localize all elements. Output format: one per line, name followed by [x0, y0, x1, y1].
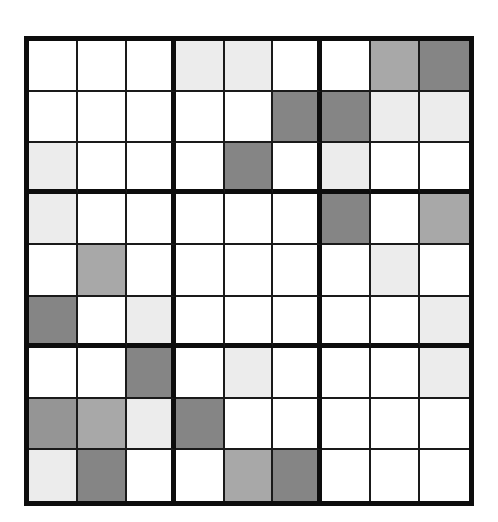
grid-cell[interactable]: [322, 92, 371, 143]
grid-cell[interactable]: [420, 41, 469, 92]
grid-cell[interactable]: [225, 348, 274, 399]
grid-cell[interactable]: [371, 143, 420, 194]
grid-cell[interactable]: [322, 297, 371, 348]
grid-cell[interactable]: [29, 41, 78, 92]
grid-cell[interactable]: [420, 92, 469, 143]
grid-cell[interactable]: [127, 41, 176, 92]
grid-cell[interactable]: [78, 450, 127, 501]
grid-cell[interactable]: [225, 41, 274, 92]
grid-cell[interactable]: [127, 348, 176, 399]
grid-cell[interactable]: [127, 92, 176, 143]
grid-cell[interactable]: [29, 92, 78, 143]
grid-cell[interactable]: [78, 92, 127, 143]
grid-cell[interactable]: [420, 450, 469, 501]
grid-cell[interactable]: [322, 348, 371, 399]
grid-cell[interactable]: [371, 194, 420, 245]
grid-cell[interactable]: [176, 297, 225, 348]
grid-cell[interactable]: [273, 297, 322, 348]
grid-cell[interactable]: [371, 297, 420, 348]
grid-cell[interactable]: [127, 297, 176, 348]
grid-cell[interactable]: [78, 399, 127, 450]
grid-cell[interactable]: [273, 245, 322, 296]
grid-cell[interactable]: [225, 399, 274, 450]
grid-cell[interactable]: [273, 143, 322, 194]
grid-cell[interactable]: [176, 92, 225, 143]
grid-cell[interactable]: [176, 450, 225, 501]
grid-cell[interactable]: [29, 450, 78, 501]
grid-cell[interactable]: [322, 143, 371, 194]
grid-cell[interactable]: [322, 399, 371, 450]
grid-cell[interactable]: [273, 194, 322, 245]
grid-cell[interactable]: [29, 245, 78, 296]
grid-cell[interactable]: [29, 143, 78, 194]
grid-cell[interactable]: [225, 92, 274, 143]
grid-cell[interactable]: [420, 143, 469, 194]
grid-cell[interactable]: [420, 399, 469, 450]
grid-cell[interactable]: [78, 245, 127, 296]
grid-cell[interactable]: [225, 245, 274, 296]
grid-cell[interactable]: [225, 450, 274, 501]
grid-cell[interactable]: [176, 194, 225, 245]
puzzle-grid: [24, 36, 474, 506]
grid-cell[interactable]: [176, 245, 225, 296]
grid-cell[interactable]: [322, 194, 371, 245]
grid-cell[interactable]: [273, 41, 322, 92]
grid-cell[interactable]: [127, 245, 176, 296]
grid-cell[interactable]: [371, 348, 420, 399]
grid-cell[interactable]: [322, 41, 371, 92]
grid-cell[interactable]: [176, 41, 225, 92]
grid-cell[interactable]: [29, 348, 78, 399]
grid-cell[interactable]: [176, 348, 225, 399]
grid-cell[interactable]: [29, 297, 78, 348]
grid-cell[interactable]: [420, 348, 469, 399]
grid-cell[interactable]: [225, 194, 274, 245]
grid-cell[interactable]: [29, 194, 78, 245]
grid-cell[interactable]: [176, 143, 225, 194]
grid-cell[interactable]: [322, 450, 371, 501]
grid-cell[interactable]: [127, 399, 176, 450]
grid-cell[interactable]: [225, 143, 274, 194]
grid-cell[interactable]: [322, 245, 371, 296]
grid-cell[interactable]: [225, 297, 274, 348]
grid-cell[interactable]: [371, 245, 420, 296]
grid-cell[interactable]: [273, 450, 322, 501]
grid-cell[interactable]: [176, 399, 225, 450]
grid-cell[interactable]: [420, 194, 469, 245]
grid-cell[interactable]: [127, 143, 176, 194]
grid-cell[interactable]: [273, 399, 322, 450]
grid-cell[interactable]: [273, 348, 322, 399]
grid-cell[interactable]: [78, 194, 127, 245]
grid-cell[interactable]: [78, 348, 127, 399]
grid-cell[interactable]: [371, 92, 420, 143]
grid-cell[interactable]: [78, 143, 127, 194]
grid-cell[interactable]: [127, 194, 176, 245]
grid-cell[interactable]: [371, 399, 420, 450]
grid-cell[interactable]: [127, 450, 176, 501]
grid-cell[interactable]: [371, 450, 420, 501]
grid-cell[interactable]: [78, 41, 127, 92]
grid-cell[interactable]: [420, 245, 469, 296]
grid-cell[interactable]: [371, 41, 420, 92]
grid-cell[interactable]: [78, 297, 127, 348]
grid-cell[interactable]: [420, 297, 469, 348]
grid-cell[interactable]: [29, 399, 78, 450]
grid-cell[interactable]: [273, 92, 322, 143]
